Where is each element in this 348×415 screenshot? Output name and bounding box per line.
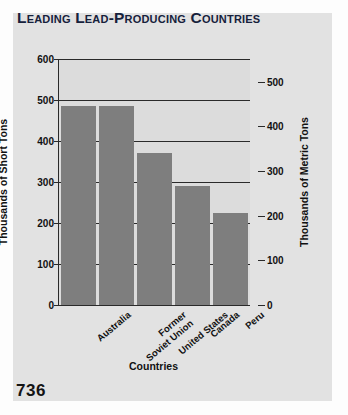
- y-axis-left-title: Thousands of Short Tons: [0, 59, 11, 305]
- y-tick-mark-left: [54, 305, 59, 306]
- y-tick-mark-right: [258, 171, 265, 172]
- figure-page: Leading Lead-Producing Countries Thousan…: [0, 0, 348, 415]
- page-number: 736: [16, 381, 46, 401]
- bar: [213, 213, 248, 305]
- plot-area: 0100200300400500600 0100200300400500: [58, 59, 250, 306]
- y-tick-label-right: 400: [267, 121, 307, 132]
- bar: [61, 106, 96, 305]
- y-tick-label-left: 500: [12, 95, 54, 106]
- y-tick-label-left: 100: [12, 259, 54, 270]
- y-tick-mark-right: [258, 305, 265, 306]
- x-axis-tick-labels: AustraliaFormerSoviet UnionUnited States…: [58, 307, 249, 359]
- y-tick-mark-right: [258, 126, 265, 127]
- y-tick-mark-right: [258, 82, 265, 83]
- page-title: Leading Lead-Producing Countries: [17, 9, 287, 27]
- bar: [99, 106, 134, 305]
- y-tick-label-right: 300: [267, 166, 307, 177]
- y-tick-label-left: 300: [12, 177, 54, 188]
- y-axis-right-title: Thousands of Metric Tons: [298, 59, 312, 305]
- y-tick-label-right: 200: [267, 210, 307, 221]
- y-tick-mark-right: [258, 260, 265, 261]
- y-tick-label-left: 200: [12, 218, 54, 229]
- y-tick-label-right: 500: [267, 76, 307, 87]
- x-tick-label: FormerSoviet Union: [137, 309, 196, 363]
- x-axis-title: Countries: [58, 360, 249, 372]
- y-tick-label-left: 600: [12, 54, 54, 65]
- y-tick-label-right: 0: [267, 300, 307, 311]
- y-tick-label-right: 100: [267, 255, 307, 266]
- bar: [175, 186, 210, 305]
- bar: [137, 153, 172, 305]
- y-tick-label-left: 0: [12, 300, 54, 311]
- x-tick-label: Australia: [95, 309, 133, 344]
- bar-series: [59, 59, 250, 305]
- y-tick-mark-right: [258, 216, 265, 217]
- y-tick-label-left: 400: [12, 136, 54, 147]
